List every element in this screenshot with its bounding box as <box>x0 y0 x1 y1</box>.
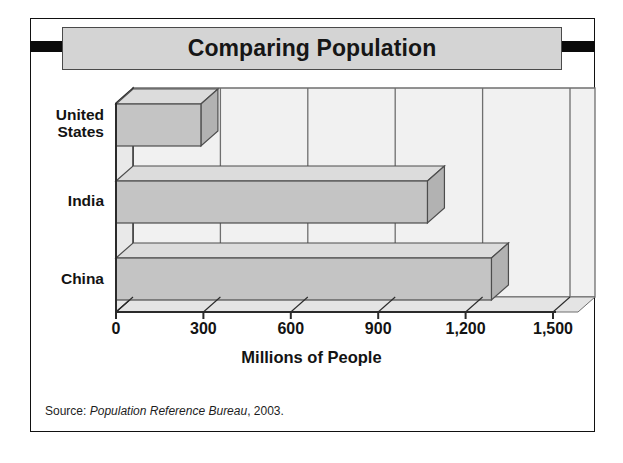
bar-united-states <box>116 89 218 146</box>
title-banner: Comparing Population <box>62 27 562 70</box>
bar-india <box>116 166 444 223</box>
bar-china <box>116 243 508 300</box>
chart-title: Comparing Population <box>188 35 437 62</box>
